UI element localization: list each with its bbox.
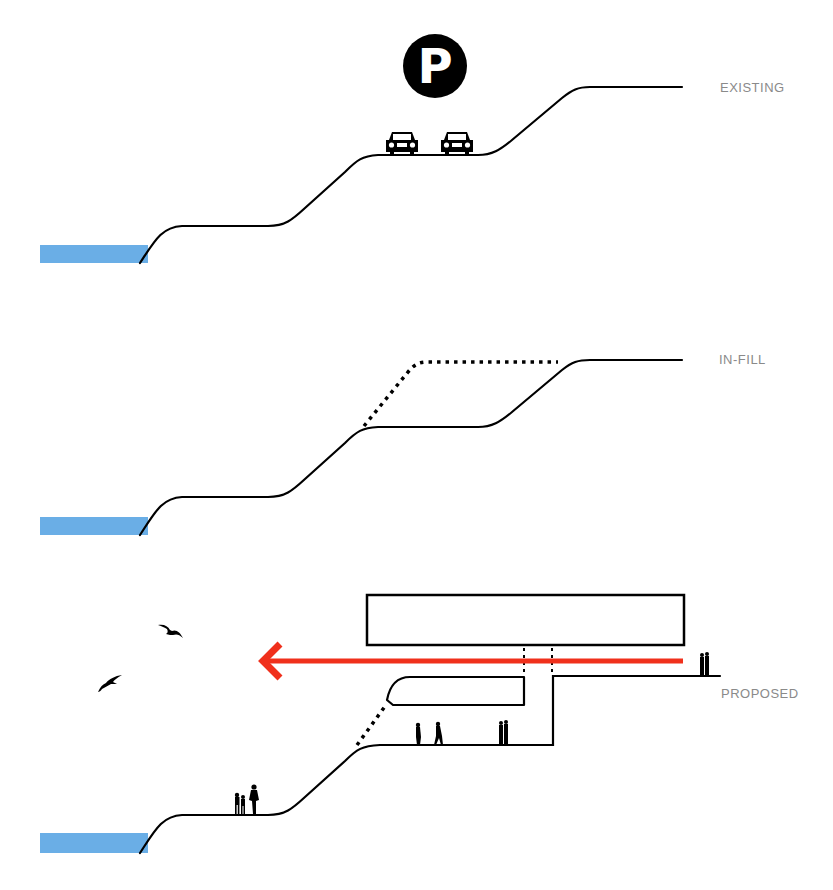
car-icon [386,132,418,155]
label-existing: EXISTING [720,80,785,95]
water [40,245,148,263]
parking-sign-icon: P [403,34,467,98]
label-in-fill: IN-FILL [719,352,766,367]
bird-icon [158,625,183,638]
water [40,517,148,535]
car-icon [441,132,473,155]
building-slab [367,595,684,645]
section-diagram [0,0,833,890]
ground-profile [140,360,682,535]
ground-profile [140,676,720,853]
underpass-slab [387,677,524,705]
infill-dotted-outline [364,362,558,426]
dotted-slope-outline [357,705,386,745]
panel-proposed [40,595,720,853]
bird-icon [98,675,122,692]
panel-in-fill [40,360,682,535]
water [40,833,148,853]
label-proposed: PROPOSED [721,686,799,701]
panel-existing [40,87,682,263]
ground-profile [140,87,682,263]
circulation-arrow-icon [263,644,683,678]
